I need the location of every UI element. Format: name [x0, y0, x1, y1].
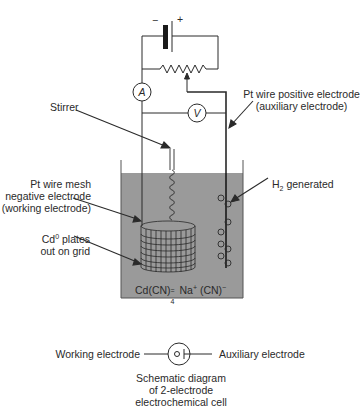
solution-prefix: Cd(CN)	[135, 284, 171, 296]
caption-line2: of 2-electrode	[121, 384, 241, 396]
stirrer-label: Stirrer	[50, 101, 79, 113]
h2-suffix: generated	[284, 178, 334, 190]
negative-electrode-label: Pt wire mesh negative electrode (working…	[0, 178, 91, 214]
solution-cn: (CN)	[197, 284, 222, 296]
battery-icon	[142, 21, 218, 69]
mesh-electrode-icon	[141, 221, 195, 272]
caption-line3: electrochemical cell	[121, 396, 241, 408]
cd-suffix: plates	[59, 233, 90, 245]
working-electrode-label: Working electrode	[20, 348, 140, 360]
cell-schematic-icon	[144, 343, 212, 365]
h2-generated-label: H2 generated	[272, 178, 334, 190]
ammeter-label: A	[134, 86, 150, 98]
solution-label: Cd(CN)=4 Na+ (CN)−	[135, 284, 226, 296]
cd-plates-line2: out on grid	[0, 245, 90, 257]
negative-electrode-line1: Pt wire mesh	[0, 178, 91, 190]
voltmeter-label: V	[189, 107, 205, 119]
battery-plus-label: +	[177, 13, 183, 25]
cd-prefix: Cd	[42, 233, 55, 245]
schematic-caption: Schematic diagram of 2-electrode electro…	[121, 372, 241, 408]
solution-na: Na	[177, 284, 193, 296]
cd-plates-label: Cd0 plates out on grid	[0, 233, 90, 257]
positive-electrode-label: Pt wire positive electrode (auxiliary el…	[240, 88, 363, 112]
battery-minus-label: −	[152, 14, 158, 26]
h2-prefix: H	[272, 178, 280, 190]
positive-electrode-line1: Pt wire positive electrode	[240, 88, 363, 100]
negative-electrode-line2: negative electrode	[0, 190, 91, 202]
positive-electrode-line2: (auxiliary electrode)	[240, 100, 363, 112]
auxiliary-electrode-label: Auxiliary electrode	[219, 348, 305, 360]
caption-line1: Schematic diagram	[121, 372, 241, 384]
negative-electrode-line3: (working electrode)	[0, 202, 91, 214]
solution-cn-sup: −	[222, 284, 226, 291]
